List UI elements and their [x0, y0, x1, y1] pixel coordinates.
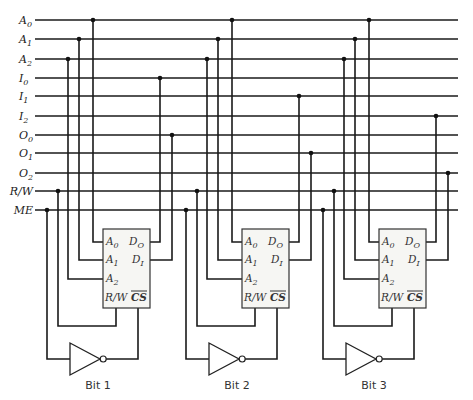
- cs-wire: [382, 308, 414, 359]
- addr-a2-wire: [207, 59, 242, 279]
- addr-a1-wire: [355, 39, 379, 260]
- bit-slice-3: A0A1A2DODIR/WCSBit 3: [321, 18, 451, 392]
- junction-dot: [66, 57, 71, 62]
- inverter-icon: [70, 343, 100, 375]
- addr-a2-wire: [68, 59, 103, 279]
- junction-dot: [367, 18, 372, 23]
- bit-label: Bit 3: [361, 379, 386, 392]
- data-out-wire: [426, 173, 448, 260]
- junction-dot: [230, 18, 235, 23]
- inverter-icon: [346, 343, 376, 375]
- pin-cs: CS: [131, 291, 147, 303]
- data-in-wire: [150, 78, 160, 242]
- bus-label-i0: I0: [18, 72, 28, 87]
- bus-lines: A0A1A2I0I1I2O0O1O2R/WME: [9, 14, 458, 217]
- addr-a0-wire: [369, 20, 379, 242]
- addr-a2-wire: [344, 59, 379, 279]
- pin-cs: CS: [270, 291, 286, 303]
- addr-a0-wire: [232, 20, 242, 242]
- bit-slice-1: A0A1A2DODIR/WCSBit 1: [45, 18, 175, 392]
- junction-dot: [205, 57, 210, 62]
- addr-a0-wire: [93, 20, 103, 242]
- bit-label: Bit 2: [224, 379, 249, 392]
- pin-rw: R/W: [380, 291, 404, 303]
- memory-schematic: A0A1A2I0I1I2O0O1O2R/WMEA0A1A2DODIR/WCSBi…: [0, 0, 473, 400]
- cs-wire: [106, 308, 138, 359]
- junction-dot: [45, 208, 50, 213]
- junction-dot: [353, 37, 358, 42]
- junction-dot: [195, 189, 200, 194]
- inverter-bubble-icon: [376, 356, 382, 362]
- junction-dot: [446, 171, 451, 176]
- inverter-bubble-icon: [239, 356, 245, 362]
- junction-dot: [170, 133, 175, 138]
- bus-label-a0: A0: [18, 14, 32, 29]
- junction-dot: [309, 151, 314, 156]
- junction-dot: [332, 189, 337, 194]
- junction-dot: [184, 208, 189, 213]
- bus-label-i2: I2: [18, 110, 28, 125]
- bit-slice-2: A0A1A2DODIR/WCSBit 2: [184, 18, 314, 392]
- inverter-bubble-icon: [100, 356, 106, 362]
- pin-rw: R/W: [243, 291, 267, 303]
- junction-dot: [77, 37, 82, 42]
- addr-a1-wire: [79, 39, 103, 260]
- junction-dot: [91, 18, 96, 23]
- bus-label-rw: R/W: [9, 185, 35, 198]
- bus-label-a1: A1: [18, 33, 32, 48]
- pin-cs: CS: [407, 291, 423, 303]
- junction-dot: [321, 208, 326, 213]
- bus-label-o2: O2: [19, 167, 33, 182]
- cs-wire: [245, 308, 277, 359]
- junction-dot: [434, 114, 439, 119]
- bus-label-o1: O1: [19, 147, 33, 162]
- bit-label: Bit 1: [85, 379, 110, 392]
- inverter-icon: [209, 343, 239, 375]
- data-in-wire: [289, 96, 299, 242]
- pin-rw: R/W: [104, 291, 128, 303]
- bus-label-i1: I1: [18, 90, 28, 105]
- junction-dot: [297, 94, 302, 99]
- junction-dot: [158, 76, 163, 81]
- bus-label-o0: O0: [19, 129, 33, 144]
- junction-dot: [56, 189, 61, 194]
- bus-label-a2: A2: [18, 53, 32, 68]
- bus-label-me: ME: [13, 204, 33, 217]
- data-out-wire: [289, 153, 311, 260]
- junction-dot: [216, 37, 221, 42]
- junction-dot: [342, 57, 347, 62]
- addr-a1-wire: [218, 39, 242, 260]
